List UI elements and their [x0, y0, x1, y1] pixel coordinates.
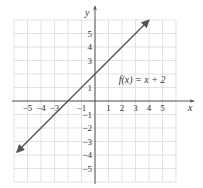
x-tick-label: 4 [147, 103, 152, 113]
x-tick-label: −5 [23, 103, 33, 113]
function-label: f(x) = x + 2 [119, 74, 166, 86]
x-tick-label: 1 [106, 103, 111, 113]
y-tick-label: 4 [88, 42, 93, 52]
y-tick-label: −2 [82, 123, 92, 133]
y-tick-label: −4 [82, 150, 92, 160]
function-graph: −5−4−3−112345 5431−1−2−3−4−5 x y f(x) = … [0, 0, 203, 188]
x-tick-label: 3 [133, 103, 138, 113]
x-tick-labels: −5−4−3−112345 [23, 103, 166, 113]
y-tick-label: −1 [82, 110, 92, 120]
y-tick-label: 3 [88, 56, 93, 66]
x-tick-label: 5 [160, 103, 165, 113]
y-tick-label: −3 [82, 137, 92, 147]
y-tick-label: 1 [88, 83, 93, 93]
y-tick-label: 5 [88, 29, 93, 39]
x-tick-label: 2 [120, 103, 125, 113]
y-tick-label: −5 [82, 164, 92, 174]
x-axis-label: x [187, 102, 193, 113]
x-tick-label: −4 [36, 103, 46, 113]
y-axis-label: y [84, 7, 90, 18]
